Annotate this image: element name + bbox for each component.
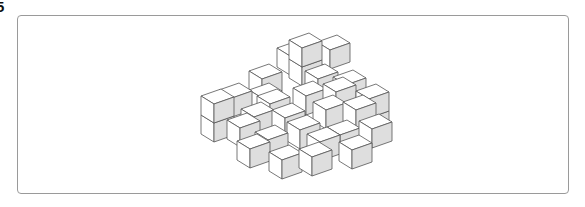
cube bbox=[237, 134, 270, 168]
isometric-cube-figure bbox=[0, 0, 585, 207]
cube bbox=[201, 89, 234, 123]
cube bbox=[269, 145, 302, 179]
cube bbox=[299, 142, 332, 176]
cube bbox=[289, 33, 322, 67]
cube bbox=[339, 135, 372, 169]
